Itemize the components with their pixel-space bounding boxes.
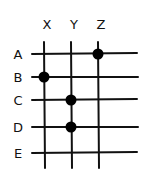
column-label-y: Y: [70, 18, 78, 31]
row-label-a: A: [14, 48, 23, 61]
row-line-c: [32, 99, 137, 100]
dot-a-z: [93, 49, 104, 60]
row-label-d: D: [13, 121, 23, 134]
column-line-x: [44, 42, 45, 168]
row-line-e: [32, 152, 137, 153]
dot-d-y: [66, 122, 77, 133]
grid-lines: [0, 0, 158, 174]
column-line-z: [98, 42, 99, 168]
row-line-a: [32, 53, 137, 54]
row-label-c: C: [13, 94, 22, 107]
column-label-z: Z: [97, 18, 106, 31]
row-label-e: E: [14, 147, 22, 160]
dot-b-x: [39, 72, 50, 83]
dot-c-y: [66, 95, 77, 106]
column-label-x: X: [43, 18, 52, 31]
row-label-b: B: [14, 71, 23, 84]
